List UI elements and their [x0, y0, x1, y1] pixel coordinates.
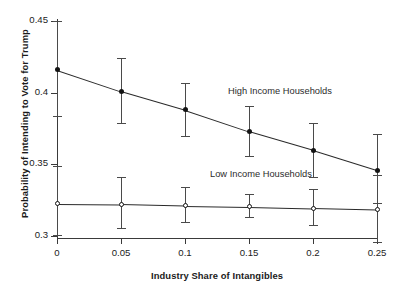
data-point — [311, 206, 316, 211]
data-point — [247, 204, 252, 209]
error-bar-cap — [181, 187, 190, 188]
error-bar-cap — [245, 106, 254, 107]
data-point — [247, 129, 252, 134]
series-line-segment — [121, 91, 185, 111]
series-label-low-income: Low Income Households — [210, 169, 312, 179]
series-line-segment — [57, 204, 121, 205]
error-bar-cap — [309, 225, 318, 226]
error-bar-cap — [245, 217, 254, 218]
error-bar-cap — [53, 116, 62, 117]
error-bar-cap — [117, 228, 126, 229]
error-bar-cap — [53, 21, 62, 22]
error-bar-cap — [53, 235, 62, 236]
error-bar-cap — [309, 189, 318, 190]
error-bar-cap — [245, 156, 254, 157]
series-line-segment — [121, 204, 185, 206]
error-bar-cap — [117, 58, 126, 59]
data-point — [375, 168, 380, 173]
data-point — [311, 148, 316, 153]
series-line-segment — [185, 110, 249, 132]
error-bar-cap — [373, 175, 382, 176]
series-line-segment — [313, 208, 377, 210]
series-label-high-income: High Income Households — [228, 86, 332, 96]
error-bar-cap — [373, 242, 382, 243]
data-point — [55, 67, 60, 72]
error-bar-cap — [373, 134, 382, 135]
error-bar-cap — [181, 83, 190, 84]
data-point — [55, 201, 60, 206]
series-line-segment — [185, 206, 249, 208]
series-line-segment — [57, 70, 121, 92]
data-point — [375, 207, 380, 212]
data-point — [119, 202, 124, 207]
error-bar-cap — [245, 194, 254, 195]
data-point — [183, 107, 188, 112]
error-bar-cap — [181, 136, 190, 137]
error-bar-cap — [181, 222, 190, 223]
series-line-segment — [249, 207, 313, 209]
error-bar-cap — [117, 177, 126, 178]
series-line-segment — [249, 131, 313, 151]
error-bar-cap — [117, 123, 126, 124]
error-bar-cap — [53, 166, 62, 167]
series-line-segment — [313, 150, 377, 171]
data-point — [119, 89, 124, 94]
data-point — [183, 203, 188, 208]
chart-figure: Probability of Intending to Vote for Tru… — [0, 0, 419, 295]
plot-area — [0, 0, 419, 295]
error-bar-cap — [309, 123, 318, 124]
